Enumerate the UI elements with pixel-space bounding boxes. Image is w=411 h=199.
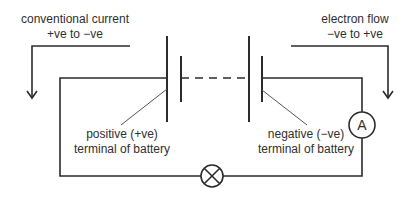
conventional-current-title: conventional current — [18, 12, 132, 27]
positive-terminal-pointer — [121, 89, 167, 125]
electron-flow-title: electron flow — [300, 12, 410, 27]
negative-terminal-title: negative (−ve) — [256, 127, 356, 142]
positive-terminal-label: positive (+ve) terminal of battery — [72, 127, 172, 157]
positive-terminal-title: positive (+ve) — [72, 127, 172, 142]
conventional-current-direction: +ve to −ve — [18, 27, 132, 42]
wire-right — [262, 78, 362, 112]
lamp-icon — [201, 165, 223, 187]
ammeter-symbol: A — [352, 116, 372, 134]
conventional-current-arrow — [27, 46, 130, 98]
electron-flow-label: electron flow −ve to +ve — [300, 12, 410, 42]
negative-terminal-label: negative (−ve) terminal of battery — [256, 127, 356, 157]
negative-terminal-subtitle: terminal of battery — [256, 142, 356, 157]
conventional-current-label: conventional current +ve to −ve — [18, 12, 132, 42]
negative-terminal-pointer — [262, 90, 307, 125]
positive-terminal-subtitle: terminal of battery — [72, 142, 172, 157]
electron-flow-arrow — [291, 46, 393, 98]
electron-flow-direction: −ve to +ve — [300, 27, 410, 42]
